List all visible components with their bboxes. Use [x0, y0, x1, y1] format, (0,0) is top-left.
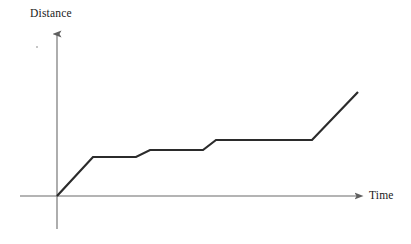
x-axis-label: Time [369, 189, 394, 201]
chart-canvas: Distance Time [0, 0, 411, 244]
y-axis-label: Distance [30, 7, 72, 19]
page-speck-artifact [36, 46, 38, 48]
distance-time-plot [0, 0, 411, 244]
distance-series-line [57, 92, 358, 196]
